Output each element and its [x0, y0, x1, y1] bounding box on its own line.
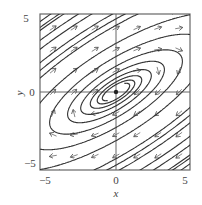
- field-arrow: [49, 133, 56, 136]
- field-arrow: [92, 47, 99, 51]
- field-arrow: [134, 133, 141, 137]
- equilibrium-point: [114, 90, 118, 94]
- field-arrow: [154, 27, 161, 30]
- x-tick-0: 0: [113, 174, 119, 186]
- field-arrow: [92, 154, 99, 157]
- trajectories: [0, 0, 202, 205]
- field-arrow: [73, 110, 75, 118]
- x-tick-5: 5: [182, 174, 188, 186]
- field-arrow: [70, 155, 77, 158]
- field-arrow: [134, 26, 141, 29]
- field-arrow: [91, 133, 98, 136]
- field-arrow: [49, 155, 57, 156]
- x-tick-neg5: −5: [39, 174, 51, 186]
- y-tick-0: 0: [29, 86, 35, 98]
- field-arrow: [175, 27, 183, 28]
- y-axis-label: y: [13, 90, 25, 96]
- x-axis-label: x: [113, 187, 119, 199]
- field-arrow: [133, 48, 140, 51]
- field-arrow: [175, 48, 182, 51]
- field-arrow: [157, 67, 159, 75]
- y-tick-5: 5: [23, 12, 29, 24]
- y-tick-neg5: −5: [24, 157, 36, 169]
- phase-portrait-figure: 5 0 −5 −5 0 5 x y: [0, 0, 202, 205]
